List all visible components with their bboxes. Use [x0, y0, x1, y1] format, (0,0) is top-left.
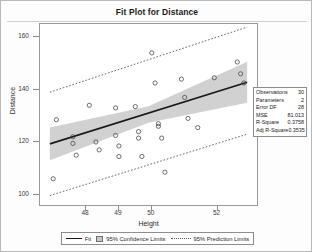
data-point	[133, 105, 137, 109]
x-tick-mark	[217, 206, 218, 211]
stats-row: Parameters2	[254, 97, 306, 105]
confidence-band-swatch-icon	[96, 236, 103, 242]
y-tick-label: 140	[3, 85, 29, 92]
prediction-line-swatch-icon	[171, 238, 191, 239]
fit-line	[50, 82, 247, 144]
data-point	[54, 118, 58, 122]
fit-plot-window: Fit Plot for Distance 100120140160 48495…	[0, 0, 312, 252]
data-point	[117, 154, 121, 158]
data-point	[97, 148, 101, 152]
legend-item-fit: Fit	[66, 236, 91, 242]
data-point	[114, 106, 118, 110]
data-point	[196, 126, 200, 130]
plot-area	[39, 23, 258, 206]
stats-key: Parameters	[256, 97, 284, 105]
fit-line-swatch-icon	[66, 238, 82, 239]
chart-legend: Fit 95% Confidence Limits 95% Prediction…	[61, 232, 254, 245]
stats-row: R-Square0.3758	[254, 119, 306, 127]
data-point	[156, 124, 160, 128]
stats-value: 30	[298, 89, 304, 97]
stats-value: 2	[301, 97, 304, 105]
y-tick-label: 120	[3, 137, 29, 144]
data-point	[74, 153, 78, 157]
stats-value: 0.3535	[288, 127, 305, 135]
x-tick-mark	[118, 206, 119, 211]
x-tick-mark	[85, 206, 86, 211]
data-point	[186, 116, 190, 120]
stats-row: Error DF28	[254, 104, 306, 112]
stats-key: R-Square	[256, 119, 279, 127]
y-axis-label: Distance	[9, 66, 16, 136]
y-tick-label: 100	[3, 190, 29, 197]
x-axis-label: Height	[39, 220, 258, 227]
stats-key: Observations	[256, 89, 288, 97]
y-tick-label: 160	[3, 32, 29, 39]
stats-key: Error DF	[256, 104, 277, 112]
legend-label-confidence: 95% Confidence Limits	[106, 236, 165, 242]
stats-row: MSE81.013	[254, 112, 306, 120]
scatter-plot-svg	[40, 24, 257, 205]
data-point	[150, 51, 154, 55]
legend-label-fit: Fit	[85, 236, 91, 242]
data-point	[160, 136, 164, 140]
data-point	[179, 77, 183, 81]
legend-item-prediction: 95% Prediction Limits	[171, 236, 250, 242]
legend-item-confidence: 95% Confidence Limits	[96, 236, 165, 242]
stats-key: MSE	[256, 112, 268, 120]
stats-value: 28	[298, 104, 304, 112]
legend-label-prediction: 95% Prediction Limits	[194, 236, 250, 242]
stats-value: 0.3758	[288, 119, 305, 127]
x-tick-mark	[151, 206, 152, 211]
data-point	[163, 170, 167, 174]
data-point	[51, 177, 55, 181]
data-point	[117, 144, 121, 148]
data-point	[140, 154, 144, 158]
title-divider	[7, 21, 307, 22]
stats-row: Observations30	[254, 89, 306, 97]
data-point	[153, 81, 157, 85]
page-title: Fit Plot for Distance	[1, 7, 312, 17]
confidence-band	[50, 62, 247, 160]
data-point	[87, 103, 91, 107]
fit-summary-box: Observations30Parameters2Error DF28MSE81…	[253, 87, 307, 137]
stats-value: 81.013	[288, 112, 305, 120]
stats-key: Adj R-Square	[256, 127, 288, 135]
data-point	[235, 60, 239, 64]
data-point	[137, 130, 141, 134]
stats-row: Adj R-Square0.3535	[254, 127, 306, 135]
data-point	[137, 136, 141, 140]
